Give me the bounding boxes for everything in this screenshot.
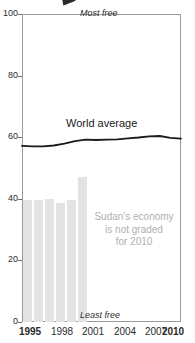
y-tick-label-60: 60 [0,132,18,141]
note-line-1: Sudan's economy [84,211,184,224]
y-tick-label-100: 100 [0,9,18,18]
y-tick-label-20: 20 [0,255,18,264]
y-tick-mark-0 [18,322,22,323]
note-line-2: is not graded [84,224,184,237]
y-tick-label-40: 40 [0,194,18,203]
cropped-title-glyph [62,0,77,6]
y-tick-label-80: 80 [0,71,18,80]
note-line-3: for 2010 [84,236,184,249]
world-average-line [22,14,181,322]
least-free-label: Least free [80,310,120,320]
economic-freedom-chart: 0 20 40 60 80 100 Most free Least free W… [0,0,195,343]
y-tick-label-0: 0 [0,317,18,326]
world-average-label: World average [66,117,137,129]
x-tick-label-2010: 2010 [151,326,195,337]
most-free-label: Most free [80,8,118,18]
